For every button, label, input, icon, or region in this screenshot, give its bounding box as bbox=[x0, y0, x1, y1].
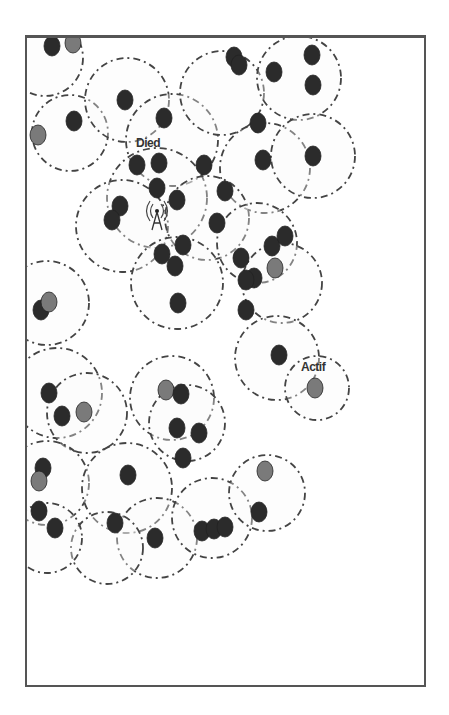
dead-sensor-node bbox=[41, 383, 57, 403]
dead-sensor-node bbox=[44, 38, 60, 56]
dead-sensor-node bbox=[120, 465, 136, 485]
dead-sensor-node bbox=[250, 113, 266, 133]
dead-sensor-node bbox=[175, 235, 191, 255]
active-node-label: Actif bbox=[301, 360, 325, 374]
dead-sensor-node bbox=[255, 150, 271, 170]
dead-sensor-node bbox=[31, 501, 47, 521]
dead-sensor-node bbox=[304, 45, 320, 65]
dead-sensor-node bbox=[66, 111, 82, 131]
dead-sensor-node bbox=[175, 448, 191, 468]
dead-sensor-node bbox=[169, 418, 185, 438]
dead-sensor-node bbox=[173, 384, 189, 404]
active-sensor-node bbox=[307, 378, 323, 398]
dead-sensor-node bbox=[217, 517, 233, 537]
dead-sensor-node bbox=[196, 155, 212, 175]
dead-sensor-node bbox=[167, 256, 183, 276]
active-sensor-node bbox=[257, 461, 273, 481]
dead-sensor-node bbox=[156, 108, 172, 128]
active-sensor-node bbox=[30, 125, 46, 145]
dead-sensor-node bbox=[277, 226, 293, 246]
active-sensor-node bbox=[65, 38, 81, 53]
dead-sensor-node bbox=[129, 155, 145, 175]
dead-node-label: Died bbox=[136, 136, 160, 150]
dead-sensor-node bbox=[233, 248, 249, 268]
active-sensor-node bbox=[76, 402, 92, 422]
dead-sensor-node bbox=[305, 75, 321, 95]
dead-sensor-node bbox=[231, 55, 247, 75]
active-sensor-node bbox=[41, 292, 57, 312]
dead-sensor-node bbox=[151, 153, 167, 173]
dead-sensor-node bbox=[305, 146, 321, 166]
dead-sensor-node bbox=[117, 90, 133, 110]
dead-sensor-node bbox=[147, 528, 163, 548]
dead-sensor-node bbox=[209, 213, 225, 233]
dead-sensor-node bbox=[154, 244, 170, 264]
dead-sensor-node bbox=[271, 345, 287, 365]
active-sensor-node bbox=[31, 471, 47, 491]
dead-sensor-node bbox=[191, 423, 207, 443]
dead-sensor-node bbox=[149, 178, 165, 198]
dead-sensor-node bbox=[238, 300, 254, 320]
dead-sensor-node bbox=[107, 513, 123, 533]
dead-sensor-node bbox=[217, 181, 233, 201]
dead-sensor-node bbox=[104, 210, 120, 230]
active-sensor-node bbox=[267, 258, 283, 278]
dead-sensor-node bbox=[169, 190, 185, 210]
dead-sensor-node bbox=[47, 518, 63, 538]
dead-sensor-node bbox=[266, 62, 282, 82]
dead-sensor-node bbox=[54, 406, 70, 426]
dead-sensor-node bbox=[238, 270, 254, 290]
network-diagram bbox=[27, 38, 424, 687]
dead-sensor-node bbox=[170, 293, 186, 313]
active-sensor-node bbox=[158, 380, 174, 400]
network-diagram-frame: Died Actif bbox=[25, 35, 426, 687]
dead-sensor-node bbox=[251, 502, 267, 522]
